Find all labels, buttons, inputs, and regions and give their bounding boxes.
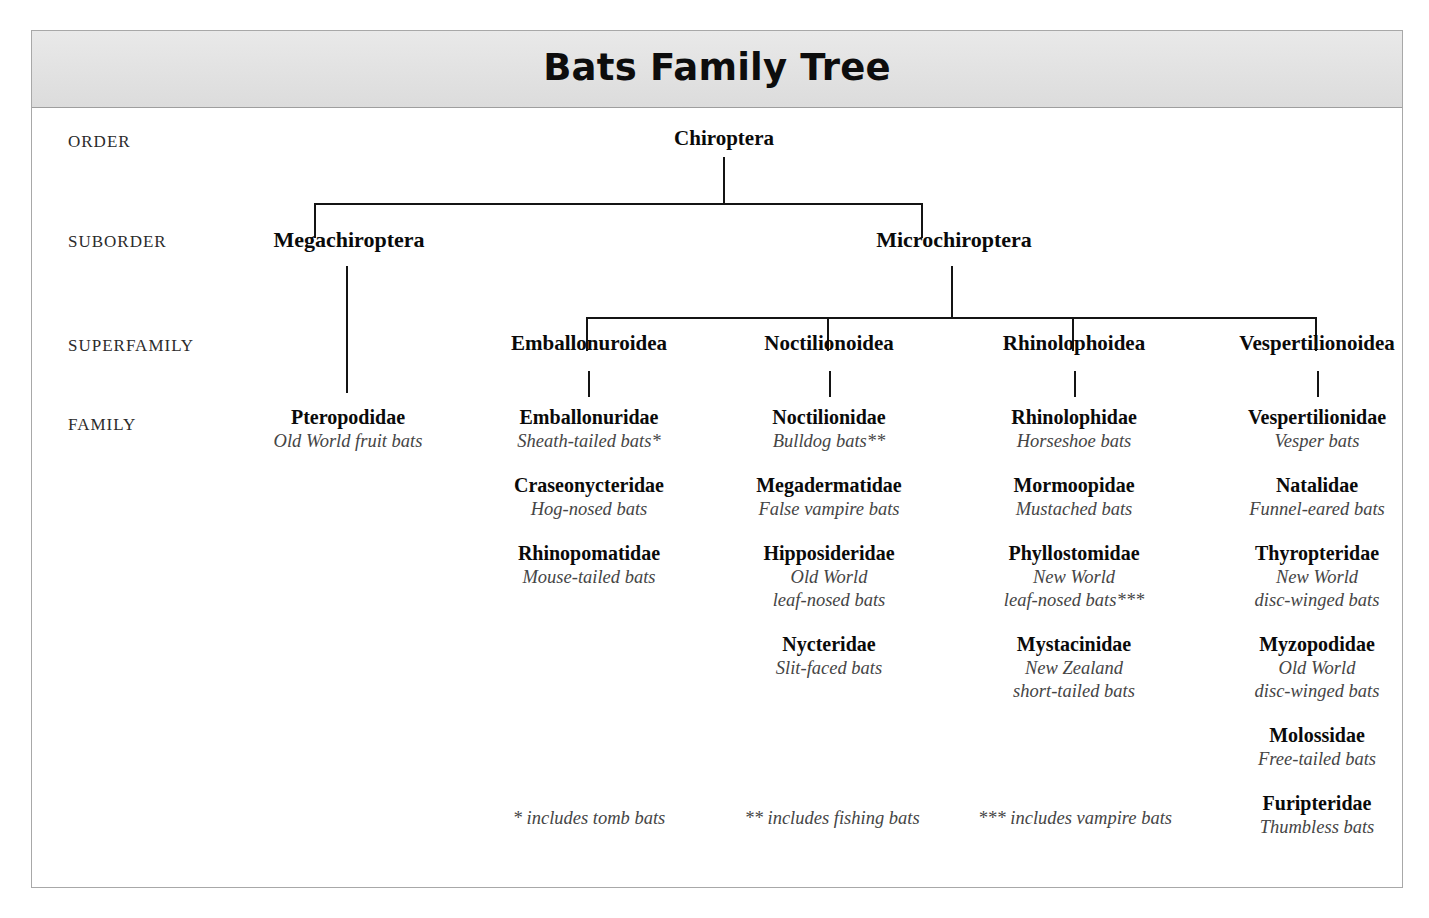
footnote-tomb-bats: * includes tomb bats [513,808,666,829]
page-title: Bats Family Tree [32,31,1402,108]
family-entry: Myzopodidae Old World disc-winged bats [1167,632,1429,703]
family-common-name: Vesper bats [1167,430,1429,453]
family-name: Molossidae [1167,723,1429,748]
family-entry: Vespertilionidae Vesper bats [1167,405,1429,453]
taxon-superfamily-noctilionoidea: Noctilionoidea [764,331,894,356]
taxon-order-chiroptera: Chiroptera [674,126,774,151]
connector-suborder-bar [314,203,923,205]
family-entry: Thyropteridae New World disc-winged bats [1167,541,1429,612]
rank-label-superfamily: SUPERFAMILY [68,336,194,356]
rank-label-order: ORDER [68,132,131,152]
taxon-superfamily-noctilionoidea-label: Noctilionoidea [764,331,894,355]
taxon-suborder-microchiroptera-label: Microchiroptera [876,227,1032,252]
connector-chiroptera-stem [723,157,725,203]
taxon-superfamily-vespertilionoidea-label: Vespertilionoidea [1239,331,1395,355]
taxon-superfamily-rhinolophoidea: Rhinolophoidea [1003,331,1145,356]
family-name: Thyropteridae [1167,541,1429,566]
family-entry: Molossidae Free-tailed bats [1167,723,1429,771]
connector-superfamily-bar [586,317,1317,319]
family-common-name: Thumbless bats [1167,816,1429,839]
rank-label-suborder: SUBORDER [68,232,167,252]
connector-rhinolophoidea-to-family [1074,371,1076,397]
family-common-name: Old World [1167,657,1429,680]
family-name: Furipteridae [1167,791,1429,816]
footnote-vampire-bats: *** includes vampire bats [978,808,1172,829]
diagram-frame: Bats Family Tree ORDER SUBORDER SUPERFAM… [31,30,1403,888]
tree-canvas: ORDER SUBORDER SUPERFAMILY FAMILY Chirop… [32,109,1402,889]
connector-emballonuroidea-to-family [588,371,590,397]
taxon-superfamily-emballonuroidea: Emballonuroidea [511,331,667,356]
family-name: Vespertilionidae [1167,405,1429,430]
connector-megachiroptera-to-pteropodidae [346,266,348,393]
taxon-suborder-microchiroptera: Microchiroptera [876,227,1032,253]
taxon-superfamily-vespertilionoidea: Vespertilionoidea [1239,331,1395,356]
connector-microchiroptera-stem [951,266,953,317]
taxon-order-chiroptera-label: Chiroptera [674,126,774,150]
family-common-name-line2: disc-winged bats [1167,680,1429,703]
family-entry: Furipteridae Thumbless bats [1167,791,1429,839]
family-common-name: Funnel-eared bats [1167,498,1429,521]
family-common-name-line2: disc-winged bats [1167,589,1429,612]
taxon-suborder-megachiroptera: Megachiroptera [273,227,424,253]
family-name: Myzopodidae [1167,632,1429,657]
rank-label-family: FAMILY [68,415,136,435]
family-name: Natalidae [1167,473,1429,498]
taxon-superfamily-rhinolophoidea-label: Rhinolophoidea [1003,331,1145,355]
taxon-suborder-megachiroptera-label: Megachiroptera [273,227,424,252]
taxon-superfamily-emballonuroidea-label: Emballonuroidea [511,331,667,355]
family-common-name: Free-tailed bats [1167,748,1429,771]
family-common-name: New World [1167,566,1429,589]
connector-noctilionoidea-to-family [829,371,831,397]
title-band: Bats Family Tree [32,31,1402,108]
footnote-fishing-bats: ** includes fishing bats [744,808,919,829]
connector-vespertilionoidea-to-family [1317,371,1319,397]
family-entry: Natalidae Funnel-eared bats [1167,473,1429,521]
